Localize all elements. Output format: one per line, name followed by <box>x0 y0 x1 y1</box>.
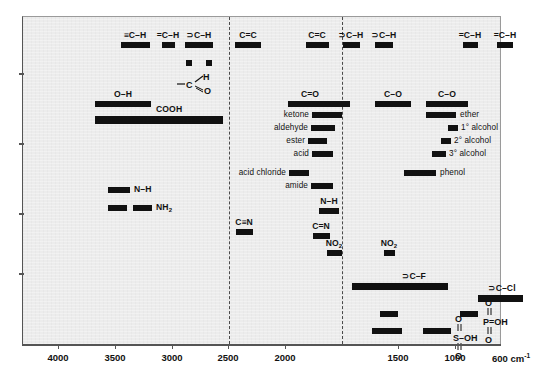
band-label: NO2 <box>326 239 343 249</box>
band-label: C≡N <box>235 218 253 227</box>
band-label: =C–H <box>157 31 180 40</box>
band-label: ≡C–H <box>124 31 147 40</box>
band-bar <box>186 60 192 66</box>
band-bar <box>95 116 223 124</box>
ir-correlation-chart: ≡C–H =C–H ⊃C–H C=C C=C ⊃C–H ⊃C–H =C–H =C… <box>0 0 536 379</box>
band-label: ether <box>460 110 479 119</box>
band-label: ⊃C–H <box>187 31 212 40</box>
x-tick-label: 2000 <box>274 352 295 363</box>
band-bar <box>497 42 513 48</box>
divider-2000 <box>229 17 230 344</box>
band-label: amide <box>285 181 308 190</box>
band-bar <box>426 112 456 118</box>
band-bar <box>463 42 478 48</box>
divider-1500 <box>342 17 343 344</box>
y-tick <box>19 73 24 75</box>
band-bar <box>95 101 151 107</box>
band-bar <box>372 328 402 334</box>
band-label: COOH <box>156 105 182 114</box>
band-label: C=O <box>301 90 319 99</box>
aldehyde-structure-svg: C H O <box>176 72 220 94</box>
y-tick <box>19 273 24 275</box>
x-axis-unit-label: 600 cm-1 <box>492 352 530 364</box>
band-bar <box>311 125 335 131</box>
band-label: =C–H <box>494 31 517 40</box>
band-bar <box>312 151 333 157</box>
band-label: 3° alcohol <box>449 149 486 158</box>
x-axis-unit: cm <box>510 353 524 364</box>
band-label: =C–H <box>459 31 482 40</box>
y-tick <box>19 213 24 215</box>
band-bar <box>236 229 253 235</box>
band-bar <box>380 311 398 317</box>
band-bar <box>448 125 458 131</box>
band-bar <box>311 183 333 189</box>
x-tick-label: 1500 <box>387 352 408 363</box>
aldehyde-structure: C H O <box>176 72 220 96</box>
band-bar <box>312 112 342 118</box>
band-label: C=N <box>312 222 330 231</box>
x-tick-label: 3500 <box>104 352 125 363</box>
x-tick-label: 3000 <box>161 352 182 363</box>
band-label: C=C <box>239 31 257 40</box>
band-bar <box>319 208 339 214</box>
band-label: aldehyde <box>274 123 308 132</box>
band-bar <box>384 250 395 256</box>
band-label: ⊃C–H <box>339 31 364 40</box>
x-tick <box>455 344 456 349</box>
band-label: ⊃C–H <box>372 31 397 40</box>
band-bar <box>423 328 451 334</box>
x-tick <box>58 344 59 349</box>
x-tick <box>285 344 286 349</box>
band-label: ketone <box>284 110 309 119</box>
band-label: ester <box>286 136 305 145</box>
band-bar <box>108 205 127 211</box>
band-bar <box>426 101 468 107</box>
band-bar <box>108 187 130 193</box>
band-bar <box>375 42 393 48</box>
band-bar <box>404 170 436 176</box>
x-tick-label: 4000 <box>47 352 68 363</box>
band-bar <box>308 138 327 144</box>
svg-text:S–OH: S–OH <box>453 333 478 343</box>
x-tick <box>115 344 116 349</box>
band-label: O–H <box>114 90 132 99</box>
band-label: C–O <box>384 90 402 99</box>
x-tick <box>228 344 229 349</box>
band-bar <box>375 101 411 107</box>
svg-text:O: O <box>204 86 211 94</box>
band-bar <box>352 283 448 290</box>
x-tick-label: 2500 <box>217 352 238 363</box>
band-label: N–H <box>320 197 338 206</box>
band-label: C=C <box>308 31 326 40</box>
band-label: 1° alcohol <box>461 123 498 132</box>
band-bar <box>327 250 342 256</box>
band-bar <box>185 42 213 48</box>
band-bar <box>432 151 446 157</box>
band-label: ⊃C–F <box>402 272 426 281</box>
band-bar <box>289 170 309 176</box>
x-tick-label: 1000 <box>444 352 465 363</box>
band-label: 2° alcohol <box>454 136 491 145</box>
band-bar <box>288 101 350 107</box>
band-bar <box>162 42 175 48</box>
band-bar <box>206 60 212 66</box>
band-label: phenol <box>440 168 465 177</box>
x-axis-last-tick-value: 600 <box>492 353 508 364</box>
band-label: C–O <box>438 90 456 99</box>
band-label: NO2 <box>381 239 398 249</box>
svg-text:O: O <box>485 298 492 308</box>
svg-text:O: O <box>455 314 462 324</box>
x-axis-unit-exponent: -1 <box>524 352 530 359</box>
band-label: ⊃C–Cl <box>488 284 515 293</box>
band-bar <box>343 42 360 48</box>
band-bar <box>133 205 152 211</box>
band-bar <box>235 42 261 48</box>
band-bar <box>121 42 150 48</box>
band-bar <box>441 138 451 144</box>
band-label: acid chloride <box>239 168 286 177</box>
band-label: NH2 <box>156 203 172 213</box>
band-label: acid <box>294 149 309 158</box>
band-bar <box>306 42 329 48</box>
x-tick <box>398 344 399 349</box>
